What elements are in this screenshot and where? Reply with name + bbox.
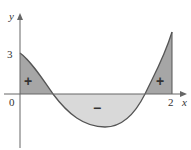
positive-sign-left: +	[24, 73, 32, 89]
y-intercept-label: 3	[7, 48, 13, 60]
negative-sign: −	[93, 100, 101, 116]
x-end-label: 2	[168, 96, 174, 108]
y-axis-arrow-icon	[17, 13, 23, 20]
signed-area-diagram: y x 3 0 2 + − +	[0, 0, 191, 150]
positive-sign-right: +	[156, 73, 164, 89]
x-axis-label: x	[181, 96, 187, 108]
origin-label: 0	[9, 96, 15, 108]
y-axis-label: y	[8, 10, 14, 22]
